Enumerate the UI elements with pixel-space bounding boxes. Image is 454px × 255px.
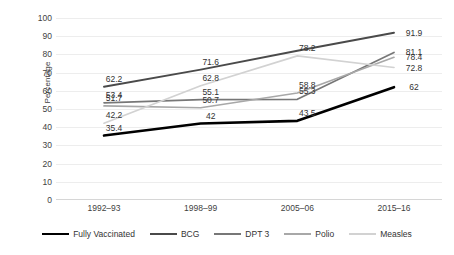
legend-label: DPT 3 xyxy=(245,229,269,239)
plot-area: 35.44243.56262.271.691.953.455.155.381.1… xyxy=(56,18,442,200)
data-label: 50.7 xyxy=(202,95,219,105)
y-axis-tick: 100 xyxy=(38,13,52,23)
y-axis-tick: 70 xyxy=(43,68,52,78)
legend-swatch xyxy=(284,233,311,235)
legend-label: Polio xyxy=(315,229,334,239)
legend-item-dpt-3[interactable]: DPT 3 xyxy=(214,229,269,239)
y-axis-tick: 50 xyxy=(43,104,52,114)
data-label: 62.8 xyxy=(202,73,219,83)
x-axis-tick: 2005–06 xyxy=(281,203,314,213)
data-label: 42 xyxy=(206,111,215,121)
y-axis-tick-labels: 0102030405060708090100 xyxy=(18,18,52,200)
data-label: 35.4 xyxy=(106,123,123,133)
data-label: 62 xyxy=(409,82,418,92)
y-axis-tick: 10 xyxy=(43,177,52,187)
data-label: 91.9 xyxy=(406,28,423,38)
data-label: 62.2 xyxy=(106,74,123,84)
series-line-fully-vaccinated xyxy=(104,87,394,135)
data-label: 72.8 xyxy=(406,63,423,73)
series-line-measles xyxy=(104,56,394,123)
data-label: 42.2 xyxy=(106,110,123,120)
y-axis-tick: 90 xyxy=(43,31,52,41)
y-axis-tick: 40 xyxy=(43,122,52,132)
data-label: 58.8 xyxy=(299,80,316,90)
legend-label: BCG xyxy=(181,229,199,239)
vaccination-coverage-line-chart: Percentage 0102030405060708090100 35.442… xyxy=(0,0,454,255)
legend-swatch xyxy=(349,233,376,235)
y-axis-tick: 20 xyxy=(43,159,52,169)
data-label: 71.6 xyxy=(202,57,219,67)
y-axis-tick: 30 xyxy=(43,140,52,150)
y-axis-tick: 80 xyxy=(43,49,52,59)
chart-legend: Fully VaccinatedBCGDPT 3PolioMeasles xyxy=(0,229,454,239)
data-label: 78.2 xyxy=(299,43,316,53)
legend-item-polio[interactable]: Polio xyxy=(284,229,334,239)
legend-swatch xyxy=(214,233,241,235)
y-axis-tick: 0 xyxy=(47,195,52,205)
legend-item-measles[interactable]: Measles xyxy=(349,229,412,239)
series-lines xyxy=(56,18,442,200)
data-label: 43.5 xyxy=(299,108,316,118)
x-axis-tick-labels: 1992–931998–992005–062015–16 xyxy=(56,203,442,221)
series-line-bcg xyxy=(104,33,394,87)
series-line-polio xyxy=(104,57,394,107)
x-axis-tick: 1998–99 xyxy=(184,203,217,213)
x-axis-tick: 2015–16 xyxy=(377,203,410,213)
x-axis-tick: 1992–93 xyxy=(87,203,120,213)
legend-label: Fully Vaccinated xyxy=(73,229,135,239)
y-axis-tick: 60 xyxy=(43,86,52,96)
data-label: 78.4 xyxy=(406,52,423,62)
data-label: 51.7 xyxy=(106,93,123,103)
legend-swatch xyxy=(42,233,69,236)
legend-swatch xyxy=(150,233,177,235)
legend-label: Measles xyxy=(380,229,412,239)
legend-item-bcg[interactable]: BCG xyxy=(150,229,199,239)
legend-item-fully-vaccinated[interactable]: Fully Vaccinated xyxy=(42,229,135,239)
